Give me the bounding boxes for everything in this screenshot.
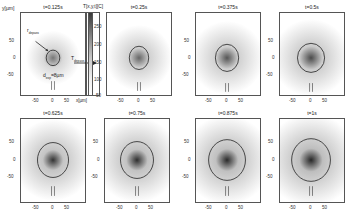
- y-axis-label: y[µm]: [2, 5, 14, 11]
- panel-8-heatmap: [280, 119, 344, 202]
- panel-7-plot: [195, 118, 261, 203]
- x-tick-neg50: -50: [289, 98, 296, 103]
- x-tick-0: 0: [137, 98, 140, 103]
- x-tick-50: 50: [238, 205, 243, 210]
- y-tick-0: 0: [13, 157, 16, 162]
- y-tick-0: 0: [188, 55, 191, 60]
- y-tick-50: 50: [184, 38, 189, 43]
- y-tick-neg50: -50: [266, 72, 273, 77]
- panel-5-heatmap: [21, 119, 85, 202]
- x-tick-50: 50: [64, 98, 69, 103]
- x-tick-0: 0: [309, 205, 312, 210]
- panel-8-title: t=1s: [279, 110, 345, 116]
- panel-3-title: t=0.375s: [195, 4, 261, 10]
- d-exp-annotation: dexp=8µm: [43, 72, 64, 80]
- panel-4-title: t=0.5s: [279, 4, 345, 10]
- x-tick-50: 50: [322, 98, 327, 103]
- x-tick-0: 0: [51, 205, 54, 210]
- y-tick-0: 0: [13, 55, 16, 60]
- colorbar-tick-250: 250: [94, 24, 102, 29]
- x-axis-label: x[µm]: [76, 98, 87, 103]
- panel-6-plot: [104, 118, 170, 203]
- panel-4-heatmap: [280, 13, 344, 95]
- x-tick-0: 0: [309, 98, 312, 103]
- panel-7-title: t=0.875s: [195, 110, 261, 116]
- x-tick-50: 50: [150, 98, 155, 103]
- x-tick-neg50: -50: [32, 205, 39, 210]
- y-tick-0: 0: [97, 157, 100, 162]
- r-depass-annotation: rdepass: [27, 27, 39, 35]
- colorbar-tick-200: 200: [94, 42, 102, 47]
- y-tick-50: 50: [268, 38, 273, 43]
- x-tick-0: 0: [135, 205, 138, 210]
- panel-5-title: t=0.625s: [20, 110, 86, 116]
- y-tick-neg50: -50: [266, 174, 273, 179]
- y-tick-neg50: -50: [7, 174, 14, 179]
- x-tick-50: 50: [64, 205, 69, 210]
- y-tick-50: 50: [93, 139, 98, 144]
- panel-3-plot: [195, 12, 261, 96]
- x-tick-50: 50: [238, 98, 243, 103]
- colorbar-tick-50: 50: [96, 93, 101, 98]
- x-tick-0: 0: [225, 98, 228, 103]
- panel-6-title: t=0.75s: [104, 110, 170, 116]
- y-tick-0: 0: [188, 157, 191, 162]
- x-tick-neg50: -50: [32, 98, 39, 103]
- panel-1-title: t=0.125s: [20, 4, 86, 10]
- y-tick-0: 0: [272, 157, 275, 162]
- y-tick-50: 50: [9, 139, 14, 144]
- x-tick-50: 50: [148, 205, 153, 210]
- panel-4-plot: [279, 12, 345, 96]
- y-tick-0: 0: [272, 55, 275, 60]
- colorbar-gradient: [88, 12, 93, 96]
- x-tick-neg50: -50: [117, 98, 124, 103]
- panel-3-heatmap: [196, 13, 260, 95]
- y-tick-neg50: -50: [91, 174, 98, 179]
- colorbar-tick-100: 100: [94, 77, 102, 82]
- panel-1-plot: rdepass dexp=8µm: [20, 12, 86, 96]
- panel-5-plot: [20, 118, 86, 203]
- panel-2-heatmap: [107, 13, 171, 95]
- panel-2-title: t=0.25s: [106, 4, 172, 10]
- x-tick-0: 0: [225, 205, 228, 210]
- x-tick-neg50: -50: [116, 205, 123, 210]
- colorbar-tick-150: 150: [94, 60, 102, 65]
- y-tick-50: 50: [9, 38, 14, 43]
- x-tick-neg50: -50: [289, 205, 296, 210]
- panel-1-heatmap: [21, 13, 85, 95]
- x-tick-50: 50: [322, 205, 327, 210]
- y-tick-50: 50: [268, 139, 273, 144]
- x-tick-neg50: -50: [205, 205, 212, 210]
- y-tick-neg50: -50: [182, 174, 189, 179]
- y-tick-neg50: -50: [7, 72, 14, 77]
- panel-8-plot: [279, 118, 345, 203]
- y-tick-neg50: -50: [182, 72, 189, 77]
- panel-7-heatmap: [196, 119, 260, 202]
- x-tick-neg50: -50: [205, 98, 212, 103]
- y-tick-50: 50: [184, 139, 189, 144]
- x-tick-0: 0: [51, 98, 54, 103]
- panel-6-heatmap: [105, 119, 169, 202]
- colorbar-label: T[x,y,t][C]: [83, 4, 103, 9]
- panel-2-plot: [106, 12, 172, 96]
